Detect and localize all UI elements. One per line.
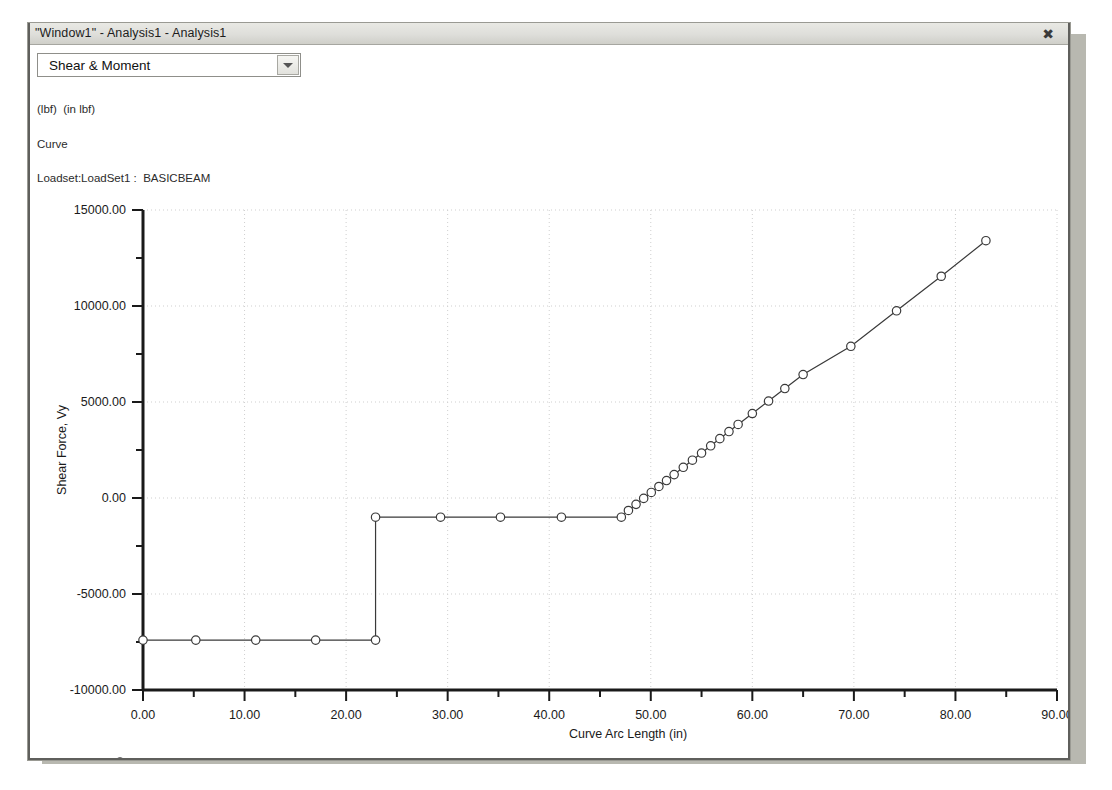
legend-canvas: Shear Force, Vy (30, 745, 430, 758)
data-point-marker[interactable] (617, 513, 625, 521)
x-tick-label: 20.00 (330, 708, 361, 722)
chart-canvas: -10000.00-5000.000.005000.0010000.001500… (30, 127, 1068, 757)
analysis-window: "Window1" - Analysis1 - Analysis1 ✖ Shea… (27, 22, 1071, 761)
data-point-marker[interactable] (688, 456, 696, 464)
close-icon[interactable]: ✖ (1038, 25, 1058, 43)
window-titlebar[interactable]: "Window1" - Analysis1 - Analysis1 ✖ (28, 23, 1070, 45)
data-point-marker[interactable] (436, 513, 444, 521)
series-line (143, 241, 986, 640)
legend-entry-label: Shear Force, Vy (252, 756, 343, 758)
y-tick-label: -5000.00 (77, 587, 126, 601)
result-type-selected-value: Shear & Moment (38, 58, 277, 73)
data-point-marker[interactable] (496, 513, 504, 521)
x-tick-label: 80.00 (940, 708, 971, 722)
data-point-marker[interactable] (557, 513, 565, 521)
x-tick-label: 70.00 (838, 708, 869, 722)
data-point-marker[interactable] (764, 397, 772, 405)
y-tick-label: 5000.00 (81, 395, 126, 409)
y-tick-label: 15000.00 (74, 203, 126, 217)
data-point-marker[interactable] (311, 636, 319, 644)
data-point-marker[interactable] (624, 506, 632, 514)
data-point-marker[interactable] (192, 636, 200, 644)
x-tick-label: 90.00 (1041, 708, 1068, 722)
data-point-marker[interactable] (716, 434, 724, 442)
data-point-marker[interactable] (697, 449, 705, 457)
data-point-marker[interactable] (725, 427, 733, 435)
x-tick-label: 10.00 (229, 708, 260, 722)
x-tick-label: 50.00 (635, 708, 666, 722)
data-point-marker[interactable] (892, 307, 900, 315)
x-tick-label: 0.00 (131, 708, 155, 722)
subtitle-units: (lbf) (in lbf) (37, 104, 210, 116)
data-point-marker[interactable] (662, 476, 670, 484)
chevron-down-glyph (283, 63, 293, 68)
data-point-marker[interactable] (937, 272, 945, 280)
data-point-marker[interactable] (139, 636, 147, 644)
data-point-marker[interactable] (655, 482, 663, 490)
data-point-marker[interactable] (252, 636, 260, 644)
data-point-marker[interactable] (781, 384, 789, 392)
data-point-marker[interactable] (632, 500, 640, 508)
window-title: "Window1" - Analysis1 - Analysis1 (35, 26, 226, 40)
shear-force-chart: -10000.00-5000.000.005000.0010000.001500… (30, 127, 1068, 757)
x-tick-label: 60.00 (737, 708, 768, 722)
data-point-marker[interactable] (639, 494, 647, 502)
y-tick-label: 0.00 (102, 491, 126, 505)
x-axis-title: Curve Arc Length (in) (569, 727, 687, 741)
data-point-marker[interactable] (799, 370, 807, 378)
chart-legend: Shear Force, Vy (30, 745, 430, 758)
data-point-marker[interactable] (706, 442, 714, 450)
data-point-marker[interactable] (982, 237, 990, 245)
data-point-marker[interactable] (371, 513, 379, 521)
data-point-marker[interactable] (679, 463, 687, 471)
data-point-marker[interactable] (734, 420, 742, 428)
data-point-marker[interactable] (647, 488, 655, 496)
chevron-down-icon[interactable] (277, 55, 299, 75)
y-axis-title: Shear Force, Vy (55, 404, 69, 495)
data-point-marker[interactable] (371, 636, 379, 644)
screen: "Window1" - Analysis1 - Analysis1 ✖ Shea… (0, 0, 1112, 790)
data-point-marker[interactable] (670, 470, 678, 478)
data-point-marker[interactable] (847, 342, 855, 350)
x-tick-label: 30.00 (432, 708, 463, 722)
data-point-marker[interactable] (748, 409, 756, 417)
y-tick-label: -10000.00 (70, 683, 126, 697)
result-type-select[interactable]: Shear & Moment (37, 53, 301, 77)
x-tick-label: 40.00 (534, 708, 565, 722)
y-tick-label: 10000.00 (74, 299, 126, 313)
window-content: Shear & Moment (lbf) (in lbf) Curve Load… (30, 45, 1068, 758)
